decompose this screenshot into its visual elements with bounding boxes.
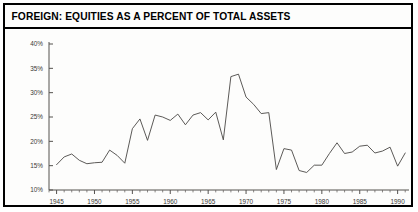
x-axis-tick-label: 1975: [277, 198, 292, 205]
x-axis-tick-label: 1990: [391, 198, 406, 205]
x-axis-tick-label: 1980: [315, 198, 330, 205]
x-axis-tick-label: 1970: [239, 198, 254, 205]
line-chart: 10%15%20%25%30%35%40%1945195019551960196…: [5, 29, 415, 207]
y-axis-tick-label: 20%: [30, 138, 43, 145]
y-axis-tick-label: 25%: [30, 113, 43, 120]
y-axis-tick-label: 40%: [30, 40, 43, 47]
x-axis-tick-label: 1965: [201, 198, 216, 205]
x-axis-tick-label: 1960: [163, 198, 178, 205]
chart-title-bar: FOREIGN: EQUITIES AS A PERCENT OF TOTAL …: [5, 5, 411, 29]
y-axis-tick-label: 35%: [30, 65, 43, 72]
x-axis-tick-label: 1945: [49, 198, 64, 205]
page-title: FOREIGN: EQUITIES AS A PERCENT OF TOTAL …: [5, 10, 291, 22]
y-axis-tick-label: 10%: [30, 186, 43, 193]
y-axis-tick-label: 30%: [30, 89, 43, 96]
x-axis-tick-label: 1955: [125, 198, 140, 205]
y-axis-tick-label: 15%: [30, 162, 43, 169]
x-axis-tick-label: 1985: [353, 198, 368, 205]
chart-panel: FOREIGN: EQUITIES AS A PERCENT OF TOTAL …: [3, 3, 413, 207]
chart-plot-area: 10%15%20%25%30%35%40%1945195019551960196…: [5, 29, 415, 207]
data-series-line-0: [57, 74, 406, 172]
x-axis-tick-label: 1950: [87, 198, 102, 205]
